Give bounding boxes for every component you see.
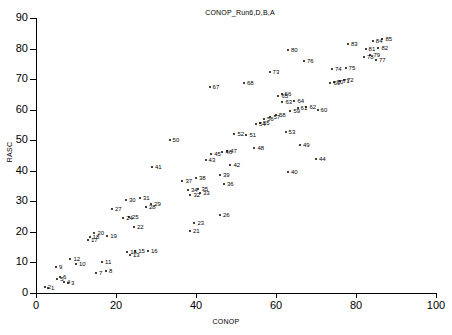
x-tick-mark xyxy=(116,293,117,298)
data-point-label: 49 xyxy=(303,142,310,148)
data-point xyxy=(363,56,365,58)
data-point-label: 82 xyxy=(381,45,388,51)
data-point-label: 47 xyxy=(230,148,237,154)
data-point xyxy=(209,86,211,88)
y-tick-label: 10 xyxy=(0,256,28,267)
y-tick-label: 40 xyxy=(0,165,28,176)
data-point-label: 30 xyxy=(129,197,136,203)
data-point-label: 15 xyxy=(138,248,145,254)
data-point xyxy=(331,68,333,70)
data-point-label: 52 xyxy=(237,131,244,137)
data-point-label: 35 xyxy=(201,186,208,192)
data-point-label: 23 xyxy=(197,220,204,226)
data-point-label: 11 xyxy=(105,259,111,265)
data-point-label: 43 xyxy=(209,157,216,163)
x-tick-mark xyxy=(356,293,357,298)
data-point-label: 58 xyxy=(279,112,286,118)
x-tick-label: 40 xyxy=(176,300,216,311)
data-point xyxy=(343,79,345,81)
x-tick-label: 20 xyxy=(96,300,136,311)
x-tick-mark xyxy=(196,293,197,298)
data-point-label: 41 xyxy=(155,164,162,170)
y-tick-label: 90 xyxy=(0,12,28,23)
data-point-label: 25 xyxy=(132,214,139,220)
data-point xyxy=(125,199,127,201)
data-point xyxy=(151,166,153,168)
scatter-chart: CONOP_Run6,D,B,A 0102030405060708090 020… xyxy=(0,0,452,335)
data-point-label: 64 xyxy=(297,98,304,104)
data-point-label: 45 xyxy=(214,151,221,157)
data-point-label: 48 xyxy=(257,145,264,151)
data-point-label: 39 xyxy=(223,172,230,178)
data-point-label: 37 xyxy=(185,178,192,184)
data-point-label: 2 xyxy=(48,284,51,290)
data-point xyxy=(55,266,57,268)
data-point-label: 12 xyxy=(73,256,80,262)
data-point xyxy=(187,189,189,191)
data-point xyxy=(345,67,347,69)
y-tick-label: 60 xyxy=(0,104,28,115)
x-tick-label: 80 xyxy=(336,300,376,311)
y-tick-label: 0 xyxy=(0,287,28,298)
data-point-label: 80 xyxy=(291,47,298,53)
data-point-label: 62 xyxy=(309,104,316,110)
data-point-label: 44 xyxy=(319,156,326,162)
data-point-label: 26 xyxy=(223,212,230,218)
y-tick-label: 80 xyxy=(0,43,28,54)
data-point-label: 27 xyxy=(115,206,122,212)
data-point-label: 3 xyxy=(71,280,74,286)
data-point xyxy=(333,81,335,83)
data-point xyxy=(44,286,46,288)
data-point xyxy=(169,139,171,141)
data-point xyxy=(255,123,257,125)
data-point-label: 10 xyxy=(79,261,86,267)
data-point xyxy=(303,60,305,62)
y-tick-label: 70 xyxy=(0,73,28,84)
data-point-label: 1 xyxy=(51,285,54,291)
data-point xyxy=(89,236,91,238)
data-point-label: 29 xyxy=(154,201,161,207)
x-tick-label: 0 xyxy=(16,300,56,311)
data-point xyxy=(297,107,299,109)
data-point-label: 7 xyxy=(99,270,102,276)
data-point-label: 38 xyxy=(199,175,206,181)
data-point xyxy=(287,171,289,173)
data-point-label: 8 xyxy=(109,268,112,274)
data-point xyxy=(347,43,349,45)
data-point xyxy=(287,49,289,51)
data-point xyxy=(101,261,103,263)
y-tick-label: 50 xyxy=(0,134,28,145)
x-tick-label: 100 xyxy=(416,300,452,311)
data-point-label: 63 xyxy=(285,99,292,105)
data-point-label: 36 xyxy=(227,181,234,187)
data-point xyxy=(111,208,113,210)
data-point xyxy=(195,177,197,179)
x-axis-title: CONOP xyxy=(0,318,452,326)
data-point-label: 9 xyxy=(59,264,62,270)
x-axis-line xyxy=(36,293,436,294)
data-point-label: 81 xyxy=(369,46,376,52)
x-tick-mark xyxy=(36,293,37,298)
data-point-label: 6 xyxy=(63,274,66,280)
data-point-label: 40 xyxy=(291,169,298,175)
data-point xyxy=(105,270,107,272)
data-point-label: 74 xyxy=(335,66,342,72)
x-tick-mark xyxy=(276,293,277,298)
data-point xyxy=(226,150,228,152)
data-point-label: 79 xyxy=(373,52,380,58)
data-point-label: 22 xyxy=(137,224,144,230)
data-point-label: 4 xyxy=(67,279,70,285)
data-point-label: 42 xyxy=(233,162,240,168)
data-point xyxy=(87,239,89,241)
data-point-label: 19 xyxy=(110,233,117,239)
data-point xyxy=(219,214,221,216)
data-point-label: 50 xyxy=(173,137,180,143)
data-point-label: 73 xyxy=(273,69,280,75)
data-point-label: 76 xyxy=(307,58,314,64)
y-tick-label: 20 xyxy=(0,226,28,237)
data-point xyxy=(133,226,135,228)
data-point xyxy=(375,59,377,61)
data-point-label: 53 xyxy=(289,129,296,135)
data-point-label: 83 xyxy=(351,41,358,47)
data-point xyxy=(317,109,319,111)
